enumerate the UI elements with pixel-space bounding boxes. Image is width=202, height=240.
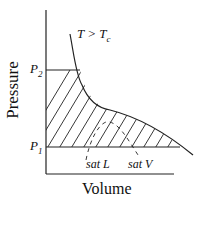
x-axis-label: Volume [82,180,131,198]
sat-liquid-label: sat L [86,157,110,172]
p2-main: P [30,61,38,76]
y-axis-label: Pressure [3,61,23,119]
p1-label: P1 [30,138,42,156]
p1-sub: 1 [38,146,43,156]
isotherm-curve [70,34,193,155]
p2-sub: 2 [38,69,43,79]
isobars [46,70,180,147]
isotherm-label: T > Tc [77,26,111,44]
sat-vapor-label: sat V [128,157,152,172]
p1-main: P [30,138,38,153]
isotherm-label-sub: c [107,34,111,44]
isotherm-label-main: T > T [77,26,107,41]
p2-label: P2 [30,61,42,79]
